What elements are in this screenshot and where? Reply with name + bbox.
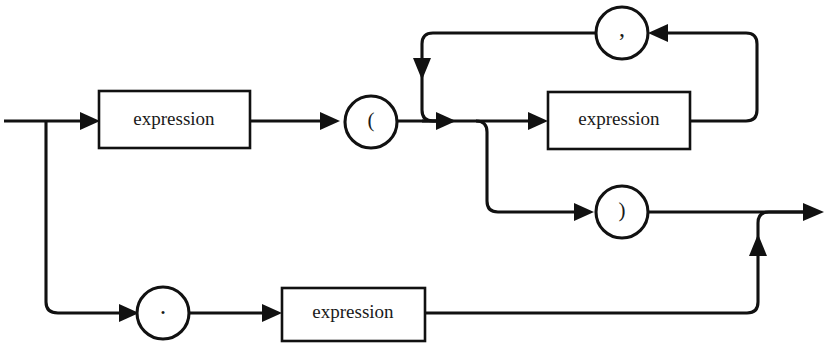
comma-label: , [619,15,625,41]
member-merge-arrow-icon [749,234,767,256]
entry-branch-down-rail [46,121,122,313]
expression-member-label: expression [312,301,394,322]
comma-loop-return-arrow-icon [413,58,431,80]
syntax-diagram-canvas: expression ( expression , ) [0,0,831,353]
close-paren-arrow-icon [574,203,594,221]
argument-arrow-icon [436,112,456,130]
argument-box-arrow-icon [528,112,548,130]
member-box-arrow-icon [262,304,282,322]
close-paren-label: ) [619,198,626,222]
expression-argument-label: expression [578,108,660,129]
railroad-diagram: expression ( expression , ) [0,0,831,353]
open-paren-label: ( [368,108,375,132]
period-label: . [160,291,167,320]
exit-arrow-icon [803,203,824,221]
openparen-arrow-icon [320,112,340,130]
comma-arrow-icon [648,24,668,42]
entry-arrow-icon [80,112,100,130]
expression-call-target-label: expression [133,108,215,129]
